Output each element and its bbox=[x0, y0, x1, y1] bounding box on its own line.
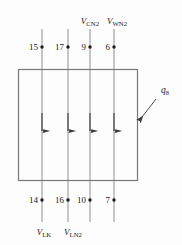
control-volume-box bbox=[19, 70, 138, 181]
label-v-cn2-sub2: 2 bbox=[96, 20, 99, 27]
node-label-16: 16 bbox=[55, 196, 64, 205]
node-label-6: 6 bbox=[106, 43, 111, 52]
node-dot-17 bbox=[66, 45, 69, 48]
label-v-ln2-sub2: 2 bbox=[79, 231, 82, 238]
node-label-14: 14 bbox=[29, 196, 38, 205]
label-v-wn2-sub2: 2 bbox=[124, 20, 127, 27]
top-node-dots-group bbox=[40, 45, 115, 48]
figure-root: VCN2 VWN2 VLK VLN2 15 17 9 6 14 16 10 7 … bbox=[0, 0, 182, 245]
label-v-ln2: VLN2 bbox=[64, 228, 82, 239]
node-dot-6 bbox=[112, 45, 115, 48]
flow-arrow-group bbox=[42, 113, 114, 131]
label-v-wn2-sub: WN bbox=[112, 20, 123, 27]
node-label-10: 10 bbox=[77, 196, 86, 205]
label-v-ln2-sub: LN bbox=[70, 231, 79, 238]
node-label-9: 9 bbox=[82, 43, 87, 52]
heat-flux-label: q8 bbox=[161, 86, 169, 96]
stream-lines-group bbox=[42, 29, 114, 222]
heat-flux-subscript: 8 bbox=[166, 89, 169, 96]
node-label-15: 15 bbox=[29, 43, 38, 52]
node-dot-16 bbox=[66, 198, 69, 201]
node-dot-10 bbox=[88, 198, 91, 201]
label-v-wn2: VWN2 bbox=[107, 17, 127, 28]
node-dot-14 bbox=[40, 198, 43, 201]
label-v-lk: VLK bbox=[37, 228, 52, 239]
label-v-cn2: VCN2 bbox=[81, 17, 99, 28]
heat-flux-leader-arrow bbox=[139, 99, 156, 121]
node-dot-7 bbox=[112, 198, 115, 201]
schematic-canvas bbox=[0, 0, 182, 245]
node-dot-9 bbox=[88, 45, 91, 48]
node-label-7: 7 bbox=[106, 196, 111, 205]
label-v-lk-sub: LK bbox=[42, 231, 51, 238]
label-v-cn2-sub: CN bbox=[86, 20, 95, 27]
node-dot-15 bbox=[40, 45, 43, 48]
node-label-17: 17 bbox=[55, 43, 64, 52]
